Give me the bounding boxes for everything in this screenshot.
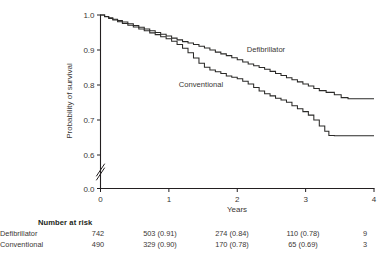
risk-cell: 65 (0.69) xyxy=(268,239,338,250)
risk-cell: 170 (0.78) xyxy=(196,239,268,250)
curve-defibrillator xyxy=(101,15,375,99)
x-tick-label: 4 xyxy=(372,195,377,204)
risk-cell: 3 xyxy=(338,239,392,250)
y-tick-label: 0.9 xyxy=(83,46,95,55)
table-row: Defibrillator742503 (0.91)274 (0.84)110 … xyxy=(0,228,392,239)
risk-values-table: Defibrillator742503 (0.91)274 (0.84)110 … xyxy=(0,228,392,250)
risk-row-label: Defibrillator xyxy=(0,228,72,239)
y-tick-label: 1.0 xyxy=(83,11,95,20)
y-tick-label: 0.6 xyxy=(83,151,95,160)
risk-cell: 329 (0.90) xyxy=(124,239,196,250)
number-at-risk-table: Number at risk Defibrillator742503 (0.91… xyxy=(0,218,392,250)
y-axis-group: 0.00.60.70.80.91.0 xyxy=(83,11,104,194)
x-tick-label: 1 xyxy=(167,195,172,204)
risk-table-heading: Number at risk xyxy=(0,218,392,228)
x-axis-group: 01234 xyxy=(98,189,377,204)
survival-curves xyxy=(101,15,375,136)
curve-conventional xyxy=(101,15,375,136)
curve-label-conventional: Conventional xyxy=(179,80,224,89)
risk-row-label: Conventional xyxy=(0,239,72,250)
risk-cell: 742 xyxy=(72,228,124,239)
x-tick-label: 0 xyxy=(98,195,103,204)
x-axis-title: Years xyxy=(227,205,247,214)
survival-curve-plot: 0.00.60.70.80.91.0 01234 DefibrillatorCo… xyxy=(0,0,392,218)
x-tick-labels: 01234 xyxy=(98,195,377,204)
y-tick-labels: 0.00.60.70.80.91.0 xyxy=(83,11,95,194)
x-tick-label: 2 xyxy=(235,195,240,204)
kaplan-meier-figure: 0.00.60.70.80.91.0 01234 DefibrillatorCo… xyxy=(0,0,392,269)
risk-cell: 503 (0.91) xyxy=(124,228,196,239)
table-row: Conventional490329 (0.90)170 (0.78)65 (0… xyxy=(0,239,392,250)
curve-label-defibrillator: Defibrillator xyxy=(247,45,286,54)
y-tick-label: 0.7 xyxy=(83,116,95,125)
x-tick-label: 3 xyxy=(303,195,308,204)
risk-cell: 274 (0.84) xyxy=(196,228,268,239)
curve-annotations: DefibrillatorConventional xyxy=(179,45,286,88)
y-axis-title: Probability of survival xyxy=(65,63,74,139)
y-tick-label: 0.0 xyxy=(83,185,95,194)
risk-cell: 490 xyxy=(72,239,124,250)
risk-cell: 9 xyxy=(338,228,392,239)
y-tick-label: 0.8 xyxy=(83,81,95,90)
risk-cell: 110 (0.78) xyxy=(268,228,338,239)
